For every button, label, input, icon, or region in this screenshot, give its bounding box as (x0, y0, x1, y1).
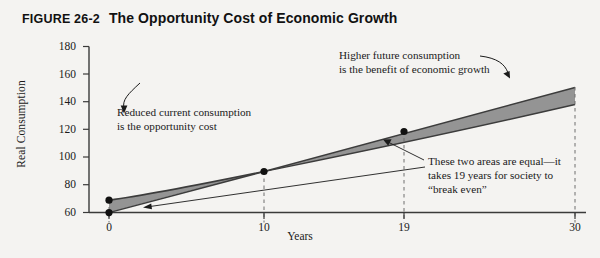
y-axis-title: Real Consumption (15, 59, 27, 189)
data-point-year0-baseline (105, 197, 112, 204)
plot-area: 180 160 140 120 100 80 60 0 10 19 30 Rea… (0, 34, 600, 258)
x-axis-title: Years (0, 230, 600, 242)
figure-container: FIGURE 26-2The Opportunity Cost of Econo… (0, 0, 600, 258)
y-tick-label-100: 100 (44, 151, 76, 163)
annotation-opportunity-cost: Reduced current consumption is the oppor… (117, 105, 251, 133)
y-tick-label-60: 60 (44, 207, 76, 219)
x-axis-ticks (109, 213, 575, 220)
figure-caption: The Opportunity Cost of Economic Growth (109, 10, 398, 26)
annotation-opportunity-cost-line2: is the opportunity cost (117, 119, 251, 133)
annotation-future-benefit: Higher future consumption is the benefit… (339, 48, 490, 76)
y-axis-ticks (83, 47, 89, 213)
y-tick-label-140: 140 (44, 96, 76, 108)
annotation-break-even-line3: “break even” (428, 182, 561, 196)
annotation-future-benefit-line2: is the benefit of economic growth (339, 62, 490, 76)
y-tick-label-160: 160 (44, 69, 76, 81)
leader-line-break-even-right (389, 143, 424, 161)
annotation-opportunity-cost-line1: Reduced current consumption (117, 105, 251, 119)
arrowhead-break-even-left (143, 204, 152, 210)
data-point-year10-crossover (260, 168, 267, 175)
figure-title: FIGURE 26-2The Opportunity Cost of Econo… (22, 10, 397, 26)
annotation-break-even-line1: These two areas are equal—it (428, 154, 561, 168)
y-tick-label-180: 180 (44, 41, 76, 53)
annotation-future-benefit-line1: Higher future consumption (339, 48, 490, 62)
y-tick-label-120: 120 (44, 124, 76, 136)
annotation-break-even: These two areas are equal—it takes 19 ye… (428, 154, 561, 197)
data-point-year19-breakeven (400, 128, 407, 135)
y-tick-label-80: 80 (44, 179, 76, 191)
data-point-year0-growth (105, 209, 112, 216)
arrowhead-future-benefit (503, 71, 510, 79)
figure-number: FIGURE 26-2 (22, 12, 100, 26)
annotation-break-even-line2: takes 19 years for society to (428, 168, 561, 182)
